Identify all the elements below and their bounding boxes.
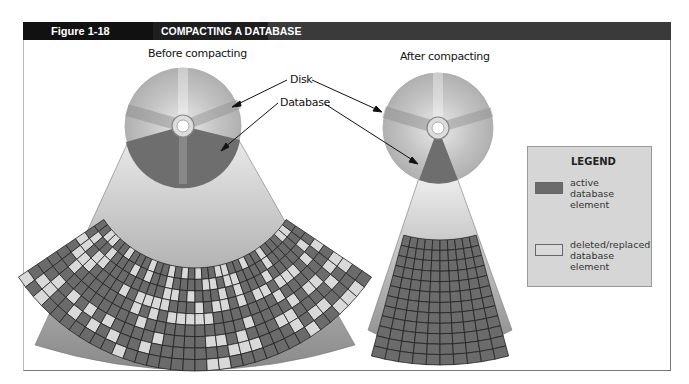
database-cell: [440, 354, 454, 365]
database-cell: [177, 301, 187, 313]
database-cell: [448, 250, 457, 261]
after-disk: [383, 73, 493, 184]
database-cell: [185, 325, 195, 337]
database-cell: [385, 349, 400, 362]
database-cell: [440, 344, 453, 355]
database-cell: [430, 271, 440, 282]
database-cell: [452, 322, 465, 333]
database-cell: [186, 302, 195, 314]
database-cell: [195, 279, 203, 291]
database-cell: [195, 268, 202, 280]
legend-label-active: active database element: [570, 177, 614, 210]
database-cell: [440, 240, 448, 251]
database-cell: [178, 290, 187, 302]
database-cell: [467, 351, 482, 363]
database-cell: [412, 269, 423, 281]
database-cell: [405, 310, 418, 322]
database-cell: [184, 336, 195, 348]
database-cell: [408, 290, 420, 302]
database-cell: [195, 336, 206, 348]
database-cell: [432, 240, 440, 251]
database-cell: [195, 325, 205, 337]
database-cell: [183, 359, 195, 371]
database-cell: [440, 271, 450, 282]
database-cell: [428, 323, 440, 334]
database-cell: [432, 250, 440, 261]
database-cell: [158, 357, 171, 370]
database-cell: [440, 313, 452, 324]
database-cell: [420, 281, 431, 292]
database-cell: [450, 281, 461, 292]
database-cell: [205, 324, 216, 336]
legend: LEGEND active database element deleted/r…: [527, 146, 652, 287]
database-cell: [430, 281, 440, 292]
database-cell: [422, 260, 431, 271]
database-cell: [440, 292, 451, 303]
database-cell: [180, 279, 188, 291]
database-cell: [451, 312, 463, 323]
database-cell: [399, 351, 414, 363]
legend-swatch-deleted: [535, 244, 563, 256]
database-cell: [171, 358, 184, 370]
database-cell: [452, 332, 465, 343]
database-cell: [187, 279, 195, 291]
database-cell: [440, 323, 452, 334]
legend-title: LEGEND: [571, 156, 616, 167]
database-cell: [453, 343, 467, 354]
database-cell: [195, 348, 207, 360]
legend-label-deleted: deleted/replaced database element: [570, 239, 650, 272]
database-cell: [448, 260, 457, 271]
database-cell: [413, 259, 423, 270]
database-cell: [205, 335, 217, 347]
database-cell: [204, 313, 214, 325]
database-cell: [416, 238, 425, 249]
database-cell: [419, 291, 430, 302]
database-cell: [427, 333, 440, 344]
database-cell: [429, 302, 440, 313]
database-cell: [415, 249, 424, 260]
database-cell: [462, 310, 475, 322]
database-cell: [417, 312, 429, 323]
before-disk: [125, 68, 241, 188]
database-cell: [195, 359, 207, 371]
database-cell: [175, 324, 186, 336]
database-cell: [461, 300, 473, 312]
database-cell: [160, 345, 173, 358]
database-cell: [168, 300, 178, 313]
database-cell: [206, 347, 218, 359]
database-cell: [480, 349, 495, 362]
database-cell: [427, 344, 440, 355]
database-cell: [429, 292, 440, 303]
database-cell: [440, 302, 451, 313]
database-cell: [407, 300, 419, 312]
database-cell: [416, 322, 429, 333]
database-cell: [421, 270, 431, 281]
database-cell: [164, 323, 175, 336]
database-cell: [185, 314, 195, 326]
database-cell: [176, 313, 186, 325]
database-cell: [428, 313, 440, 324]
database-cell: [431, 261, 440, 272]
database-cell: [413, 343, 427, 354]
database-cell: [453, 353, 467, 364]
database-cell: [195, 314, 205, 326]
database-cell: [207, 358, 220, 370]
after-database-cells: [371, 235, 508, 365]
database-cell: [195, 302, 204, 314]
database-cell: [450, 291, 461, 302]
database-cell: [449, 270, 459, 281]
database-cell: [166, 311, 177, 324]
database-cell: [424, 239, 432, 250]
database-cell: [440, 333, 453, 344]
database-cell: [440, 261, 449, 272]
database-cell: [183, 348, 195, 360]
database-cell: [188, 268, 195, 280]
database-cell: [440, 250, 448, 261]
database-cell: [423, 250, 432, 261]
database-cell: [187, 291, 195, 303]
database-cell: [181, 267, 189, 279]
database-cell: [410, 279, 421, 291]
database-cell: [440, 281, 450, 292]
database-cell: [426, 354, 440, 365]
database-cell: [414, 332, 427, 343]
